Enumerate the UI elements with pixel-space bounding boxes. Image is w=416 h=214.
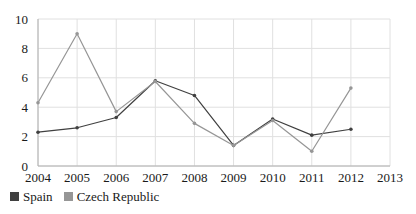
- axis-lines: [38, 19, 390, 166]
- data-point-marker: [36, 101, 40, 105]
- data-point-marker: [310, 150, 314, 154]
- x-axis-tick-label: 2009: [212, 171, 256, 184]
- data-point-marker: [114, 116, 118, 120]
- data-point-marker: [114, 110, 118, 114]
- legend-item: Czech Republic: [64, 190, 160, 203]
- data-point-marker: [75, 126, 79, 130]
- x-axis-tick-label: 2012: [329, 171, 373, 184]
- legend-swatch-icon: [64, 192, 73, 201]
- x-axis-tick-label: 2013: [368, 171, 412, 184]
- chart-legend: SpainCzech Republic: [10, 190, 159, 203]
- gridlines: [38, 19, 390, 166]
- x-axis-tick-label: 2007: [133, 171, 177, 184]
- data-point-marker: [349, 127, 353, 131]
- data-point-marker: [232, 144, 236, 148]
- data-point-marker: [310, 133, 314, 137]
- y-axis-tick-label: 2: [2, 130, 28, 143]
- legend-label: Spain: [23, 190, 53, 203]
- data-point-marker: [349, 86, 353, 90]
- line-chart: 0246810 20042005200620072008200920102011…: [0, 0, 416, 214]
- data-point-marker: [193, 94, 197, 98]
- y-axis-tick-label: 6: [2, 71, 28, 84]
- legend-item: Spain: [10, 190, 53, 203]
- x-axis-tick-label: 2004: [16, 171, 60, 184]
- y-axis-tick-label: 4: [2, 101, 28, 114]
- data-point-marker: [75, 32, 79, 36]
- x-axis-tick-label: 2010: [251, 171, 295, 184]
- legend-label: Czech Republic: [77, 190, 160, 203]
- data-point-marker: [193, 122, 197, 126]
- data-point-marker: [36, 130, 40, 134]
- x-axis-tick-label: 2006: [94, 171, 138, 184]
- data-point-marker: [271, 119, 275, 123]
- x-axis-tick-label: 2005: [55, 171, 99, 184]
- x-axis-tick-label: 2011: [290, 171, 334, 184]
- y-axis-tick-label: 8: [2, 42, 28, 55]
- y-axis-tick-label: 10: [2, 13, 28, 26]
- x-axis-tick-label: 2008: [172, 171, 216, 184]
- legend-swatch-icon: [10, 192, 19, 201]
- data-point-marker: [154, 80, 158, 84]
